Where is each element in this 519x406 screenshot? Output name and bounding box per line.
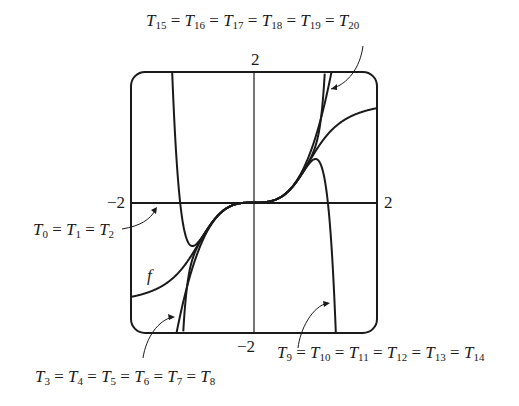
x-min-label: −2	[107, 194, 125, 211]
annotation-t9-t14: T9 = T10 = T11 = T12 = T13 = T14	[277, 344, 484, 361]
x-max-label: 2	[384, 194, 393, 211]
y-max-label: 2	[251, 51, 260, 68]
arrow-t9-t14	[298, 303, 328, 348]
function-f-label: f	[147, 267, 152, 284]
y-min-label: −2	[237, 338, 255, 355]
arrow-head-t9-t14	[323, 301, 330, 307]
annotation-t15-t20: T15 = T16 = T17 = T18 = T19 = T20	[146, 12, 359, 29]
arrow-head-t15-t20	[331, 84, 337, 90]
taylor-polynomial-figure: 2 −2 −2 2 f T15 = T16 = T17 = T18 = T19 …	[0, 0, 519, 406]
arrow-t0-t2	[122, 209, 156, 229]
arrow-head-t3-t8	[168, 314, 175, 320]
annotation-t0-t2: T0 = T1 = T2	[33, 221, 114, 238]
arrow-t3-t8	[143, 317, 173, 358]
annotation-t3-t8: T3 = T4 = T5 = T6 = T7 = T8	[35, 368, 215, 385]
arrow-t15-t20	[331, 46, 363, 89]
